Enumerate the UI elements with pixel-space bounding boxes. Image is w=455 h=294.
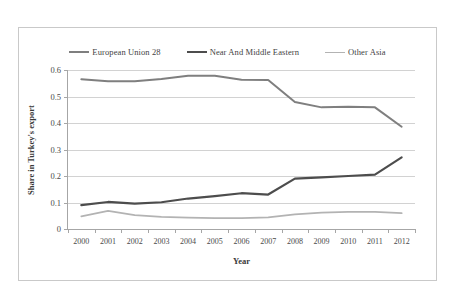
series-line: [81, 157, 401, 205]
x-tick-label: 2004: [180, 237, 196, 246]
x-tick-label: 2008: [287, 237, 303, 246]
plot-axis-bottom: [67, 229, 416, 230]
x-tick-mark: [415, 229, 416, 233]
x-tick-mark: [255, 229, 256, 233]
y-tick-label: 0.2: [50, 171, 61, 181]
x-tick-label: 2012: [394, 237, 410, 246]
legend-item-label: Near And Middle Eastern: [210, 47, 299, 57]
y-tick-label: 0: [57, 224, 61, 234]
legend-item[interactable]: European Union 28: [69, 47, 160, 57]
x-tick-label: 2006: [234, 237, 250, 246]
y-tick-label: 0.3: [50, 145, 61, 155]
x-tick-label: 2002: [127, 237, 143, 246]
x-tick-mark: [308, 229, 309, 233]
x-axis-title: Year: [68, 256, 415, 266]
legend-item[interactable]: Near And Middle Eastern: [187, 47, 299, 57]
series-line: [81, 211, 401, 218]
series-lines: [68, 70, 415, 229]
plot-area: 00.10.20.30.40.50.6 20002001200220032004…: [68, 70, 415, 229]
x-tick-mark: [388, 229, 389, 233]
x-tick-label: 2007: [260, 237, 276, 246]
x-tick-mark: [335, 229, 336, 233]
legend-line-swatch: [187, 51, 207, 53]
x-tick-mark: [175, 229, 176, 233]
x-tick-mark: [68, 229, 69, 233]
y-tick-label: 0.4: [50, 118, 61, 128]
chart-figure: European Union 28Near And Middle Eastern…: [0, 0, 455, 294]
x-tick-mark: [148, 229, 149, 233]
x-tick-label: 2001: [100, 237, 116, 246]
x-tick-mark: [201, 229, 202, 233]
legend-line-swatch: [69, 51, 89, 53]
y-axis-title-text: Share in Turkey's export: [26, 105, 36, 195]
legend-item-label: Other Asia: [348, 47, 386, 57]
y-tick-label: 0.1: [50, 198, 61, 208]
legend-line-swatch: [325, 52, 345, 53]
x-tick-mark: [121, 229, 122, 233]
x-tick-label: 2009: [314, 237, 330, 246]
x-tick-label: 2003: [153, 237, 169, 246]
legend-item-label: European Union 28: [92, 47, 160, 57]
y-tick-label: 0.5: [50, 92, 61, 102]
scan-artifact: [0, 0, 455, 12]
x-tick-label: 2000: [73, 237, 89, 246]
x-tick-label: 2005: [207, 237, 223, 246]
y-tick-label: 0.6: [50, 65, 61, 75]
x-tick-mark: [95, 229, 96, 233]
x-tick-mark: [282, 229, 283, 233]
series-line: [81, 76, 401, 127]
y-axis-title: Share in Turkey's export: [24, 70, 38, 229]
x-tick-mark: [228, 229, 229, 233]
chart-legend: European Union 28Near And Middle Eastern…: [18, 44, 437, 60]
x-tick-label: 2011: [367, 237, 383, 246]
x-tick-label: 2010: [340, 237, 356, 246]
legend-item[interactable]: Other Asia: [325, 47, 386, 57]
x-tick-mark: [362, 229, 363, 233]
